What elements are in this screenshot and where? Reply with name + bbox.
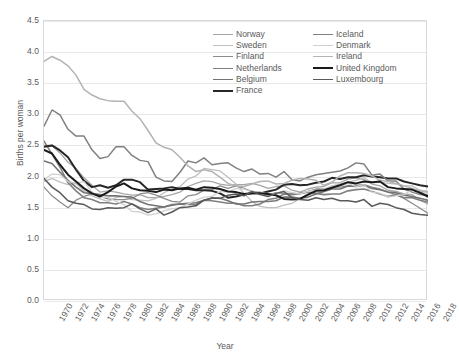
- legend: NorwaySwedenFinlandNetherlandsBelgiumFra…: [213, 29, 428, 96]
- legend-item-label: United Kingdom: [336, 64, 396, 73]
- legend-item-label: Iceland: [336, 30, 363, 39]
- legend-line-swatch: [313, 56, 333, 57]
- x-tick-label: 2000: [297, 302, 314, 323]
- y-tick-label: 1.0: [0, 234, 39, 243]
- x-tick-label: 1970: [57, 302, 74, 323]
- legend-item-label: Norway: [236, 30, 265, 39]
- x-tick-label: 1986: [185, 302, 202, 323]
- legend-item[interactable]: Finland: [213, 51, 313, 62]
- legend-line-swatch: [213, 90, 233, 92]
- x-tick-label: 2004: [329, 302, 346, 323]
- legend-item[interactable]: Sweden: [213, 40, 313, 51]
- x-tick-label: 2018: [441, 302, 458, 323]
- legend-item-label: Ireland: [336, 52, 362, 61]
- x-tick-label: 1996: [265, 302, 282, 323]
- legend-item[interactable]: Netherlands: [213, 63, 313, 74]
- x-tick-label: 1978: [121, 302, 138, 323]
- legend-item-label: Denmark: [336, 41, 370, 50]
- legend-item-label: Belgium: [236, 75, 267, 84]
- x-tick-label: 1992: [233, 302, 250, 323]
- legend-line-swatch: [313, 79, 333, 80]
- y-tick-label: 4.5: [0, 16, 39, 25]
- x-tick-label: 2006: [345, 302, 362, 323]
- x-tick-label: 1980: [137, 302, 154, 323]
- legend-line-swatch: [213, 68, 233, 69]
- legend-item[interactable]: Iceland: [313, 29, 428, 40]
- legend-item-label: Finland: [236, 52, 264, 61]
- x-tick-label: 2010: [377, 302, 394, 323]
- x-tick-label: 1976: [105, 302, 122, 323]
- y-axis-title: Births per woman: [15, 83, 25, 183]
- legend-item-label: Netherlands: [236, 64, 282, 73]
- y-tick-label: 0.0: [0, 296, 39, 305]
- legend-line-swatch: [213, 79, 233, 80]
- legend-line-swatch: [313, 34, 333, 35]
- legend-item[interactable]: Belgium: [213, 74, 313, 85]
- legend-item[interactable]: Denmark: [313, 40, 428, 51]
- x-tick-label: 2016: [425, 302, 442, 323]
- legend-line-swatch: [213, 34, 233, 35]
- x-tick-label: 1990: [217, 302, 234, 323]
- legend-line-swatch: [313, 45, 333, 46]
- x-tick-label: 1998: [281, 302, 298, 323]
- x-tick-label: 2012: [393, 302, 410, 323]
- x-axis-tick-labels: 1970197219741976197819801982198419861988…: [43, 302, 427, 342]
- x-tick-label: 1994: [249, 302, 266, 323]
- legend-item-label: Luxembourg: [336, 75, 383, 84]
- legend-item[interactable]: France: [213, 85, 313, 96]
- legend-item[interactable]: Norway: [213, 29, 313, 40]
- legend-column-left: NorwaySwedenFinlandNetherlandsBelgiumFra…: [213, 29, 313, 96]
- legend-item[interactable]: United Kingdom: [313, 63, 428, 74]
- x-tick-label: 1984: [169, 302, 186, 323]
- legend-item-label: Sweden: [236, 41, 267, 50]
- x-tick-label: 1974: [89, 302, 106, 323]
- x-tick-label: 2014: [409, 302, 426, 323]
- legend-line-swatch: [213, 56, 233, 57]
- legend-item-label: France: [236, 86, 262, 95]
- legend-item[interactable]: Ireland: [313, 51, 428, 62]
- legend-line-swatch: [213, 45, 233, 46]
- x-tick-label: 2002: [313, 302, 330, 323]
- x-tick-label: 1988: [201, 302, 218, 323]
- x-tick-label: 2008: [361, 302, 378, 323]
- y-tick-label: 1.5: [0, 203, 39, 212]
- legend-column-right: IcelandDenmarkIrelandUnited KingdomLuxem…: [313, 29, 428, 96]
- x-tick-label: 1972: [73, 302, 90, 323]
- y-tick-label: 4.0: [0, 47, 39, 56]
- y-tick-label: 0.5: [0, 265, 39, 274]
- legend-item[interactable]: Luxembourg: [313, 74, 428, 85]
- legend-line-swatch: [313, 67, 333, 69]
- x-tick-label: 1982: [153, 302, 170, 323]
- x-axis-title: Year: [0, 341, 450, 351]
